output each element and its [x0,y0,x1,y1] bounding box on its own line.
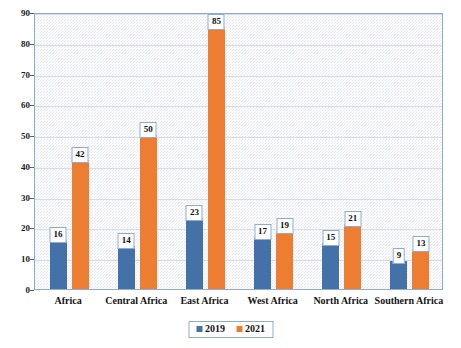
bar-2021-north-africa [344,224,361,289]
bar-value-label: 23 [186,205,203,221]
bar-value-label: 42 [72,147,89,163]
legend-item-2021[interactable]: 2021 [236,324,265,334]
bar-value-label: 19 [276,218,293,234]
bar-value-label: 16 [50,227,67,243]
y-axis-tick-label: 60 [2,101,30,110]
legend-label: 2019 [205,324,225,334]
legend-item-2019[interactable]: 2019 [196,324,225,334]
bar-2021-west-africa [276,231,293,289]
bar-value-label: 9 [393,248,406,264]
y-axis-tick-label: 90 [2,9,30,18]
bar-2019-africa [50,240,67,289]
x-axis-label-africa: Africa [54,296,81,306]
bar-value-label: 17 [254,224,271,240]
gridline [35,260,442,261]
y-axis-tick-label: 0 [2,286,30,295]
bar-value-label: 85 [208,14,225,30]
gridline [35,76,442,77]
bar-2019-west-africa [254,237,271,289]
x-axis-label-southern-africa: Southern Africa [375,296,444,306]
gridline [35,137,442,138]
bar-2021-central-africa [140,135,157,289]
legend-label: 2021 [245,324,265,334]
y-axis-tick-mark [30,290,34,291]
gridline [35,106,442,107]
gridline [35,199,442,200]
bar-value-label: 50 [140,122,157,138]
bar-value-label: 14 [118,233,135,249]
bar-2021-africa [72,160,89,289]
y-axis-tick-label: 20 [2,224,30,233]
x-axis-label-central-africa: Central Africa [105,296,167,306]
chart-legend[interactable]: 20192021 [188,321,273,338]
plot-area: 16421450238517191521913 [34,13,443,290]
y-axis-tick-label: 30 [2,194,30,203]
gridline [35,14,442,15]
y-axis-tick-label: 50 [2,132,30,141]
x-axis-label-east-africa: East Africa [180,296,228,306]
gridline [35,229,442,230]
bar-2021-east-africa [208,27,225,289]
x-axis-label-north-africa: North Africa [313,296,368,306]
bar-chart: 16421450238517191521913 0102030405060708… [0,0,461,348]
y-axis-tick-label: 10 [2,255,30,264]
bar-value-label: 21 [344,211,361,227]
x-axis-label-west-africa: West Africa [247,296,297,306]
y-axis-tick-label: 80 [2,40,30,49]
y-axis-tick-label: 70 [2,71,30,80]
gridline [35,168,442,169]
legend-swatch-icon [236,326,242,332]
plot-background-texture [35,14,442,289]
y-axis-tick-label: 40 [2,163,30,172]
gridline [35,45,442,46]
bar-2019-east-africa [186,218,203,289]
bar-2019-southern-africa [390,261,407,289]
bar-2019-north-africa [322,243,339,289]
bar-value-label: 15 [322,230,339,246]
bar-value-label: 13 [412,236,429,252]
legend-swatch-icon [196,326,202,332]
bar-2021-southern-africa [412,249,429,289]
bar-2019-central-africa [118,246,135,289]
